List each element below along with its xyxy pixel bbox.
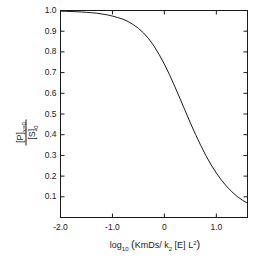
x-axis-tick-label: -2.0	[46, 223, 76, 232]
y-axis-tick-label: 0.9	[31, 27, 57, 36]
x-axis-tick-label: -1.0	[97, 223, 127, 232]
y-axis-tick-label: 0.7	[31, 68, 57, 77]
x-axis-tick-label: 0	[149, 223, 179, 232]
x-axis-tick-label: 1.0	[201, 223, 231, 232]
x-axis-label-length-exponent: 2	[193, 240, 196, 246]
x-axis-label-k-subscript: 2	[169, 246, 172, 252]
x-axis-label-log: log	[110, 240, 122, 250]
x-axis-label-log-base: 10	[122, 246, 129, 252]
y-axis-label-numerator: [P]x=0	[15, 120, 26, 145]
x-axis-label-numerator: KmDs/	[135, 240, 162, 250]
y-axis-tick-label: 0.2	[31, 172, 57, 181]
x-axis-label-close-bracket: )	[196, 238, 200, 250]
y-axis-tick-label: 1.0	[31, 6, 57, 15]
x-axis-label-enzyme: [E]	[175, 240, 186, 250]
y-axis-tick-label: 0.1	[31, 192, 57, 201]
y-axis-label-fraction: [P]x=0 [S]0	[15, 119, 38, 145]
y-axis-label-denominator-subscript: 0	[33, 125, 39, 128]
x-axis-label: log10 (KmDs/ k2 [E] L2)	[60, 238, 250, 250]
y-axis-label: [P]x=0 [S]0	[4, 96, 48, 168]
y-axis-label-denominator-main: [S]	[27, 128, 37, 139]
y-axis-label-denominator: [S]0	[27, 123, 38, 141]
plot-frame	[61, 11, 248, 218]
figure-container: 0.10.20.30.40.50.60.70.80.91.0 -2.0-1.00…	[0, 0, 260, 262]
y-axis-tick-label: 0.8	[31, 47, 57, 56]
y-axis-label-numerator-subscript: x=0	[21, 122, 27, 132]
y-axis-label-numerator-main: [P]	[15, 131, 25, 142]
